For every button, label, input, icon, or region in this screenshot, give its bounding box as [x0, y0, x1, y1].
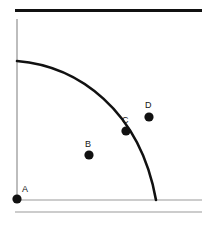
frontier-curve — [17, 61, 156, 200]
diagram-canvas — [0, 0, 210, 225]
point-label-a: A — [22, 185, 28, 194]
data-point-c[interactable] — [121, 126, 130, 135]
point-label-b: B — [85, 140, 91, 149]
data-point-a[interactable] — [12, 194, 21, 203]
point-label-d: D — [145, 101, 152, 110]
point-label-c: C — [122, 116, 129, 125]
data-point-d[interactable] — [144, 112, 153, 121]
data-point-b[interactable] — [84, 150, 93, 159]
ppf-diagram: A B C D — [0, 0, 210, 225]
